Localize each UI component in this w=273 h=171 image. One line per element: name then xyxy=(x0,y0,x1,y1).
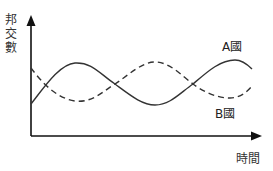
y-axis-label-char: 數 xyxy=(4,41,18,55)
x-axis-arrow-icon xyxy=(251,132,262,141)
y-axis-label-char: 交 xyxy=(4,27,18,41)
chart-canvas xyxy=(0,0,273,171)
y-axis-arrow-icon xyxy=(27,15,36,26)
line-diagram: 邦 交 數 A國 B國 時間 xyxy=(0,0,273,171)
x-axis-label: 時間 xyxy=(236,149,260,166)
y-axis-label: 邦 交 數 xyxy=(4,13,18,55)
series-b-label: B國 xyxy=(215,104,235,121)
y-axis-label-char: 邦 xyxy=(4,13,18,27)
series-a-label: A國 xyxy=(222,37,242,54)
